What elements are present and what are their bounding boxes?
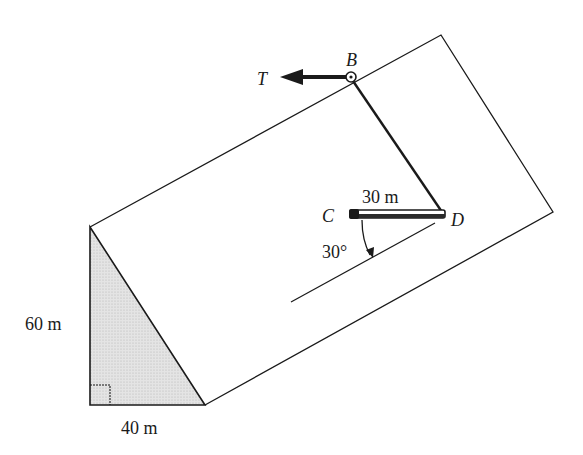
- label-base: 40 m: [121, 418, 158, 438]
- label-c: C: [322, 206, 335, 226]
- rod-cd: [349, 209, 445, 219]
- label-height: 60 m: [25, 314, 62, 334]
- label-t: T: [257, 69, 269, 89]
- angle-arrow: [362, 220, 374, 258]
- side-triangle: [90, 227, 205, 405]
- label-rod-length: 30 m: [362, 187, 399, 207]
- pin-b: [346, 72, 356, 82]
- label-d: D: [450, 210, 464, 230]
- label-angle: 30°: [322, 242, 347, 262]
- label-b: B: [346, 50, 357, 70]
- force-t-arrow: [280, 69, 346, 85]
- inclined-plane-diagram: B T C D 30 m 30° 60 m 40 m: [0, 0, 583, 455]
